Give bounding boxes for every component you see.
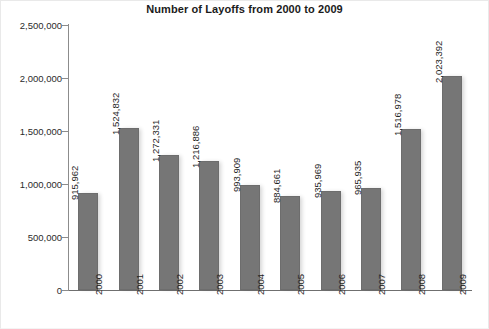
x-axis-label-2005: 2005 bbox=[295, 274, 306, 295]
bar-2002[interactable] bbox=[159, 155, 179, 290]
bar-value-label-2009: 2,023,392 bbox=[433, 40, 444, 82]
x-axis-label-2009: 2009 bbox=[457, 274, 468, 295]
y-axis-label: 0 bbox=[2, 285, 62, 296]
plot-area: 915,9621,524,8321,272,3311,216,886993,90… bbox=[68, 25, 472, 290]
bar-2009[interactable] bbox=[442, 76, 462, 290]
x-axis-label-2008: 2008 bbox=[416, 274, 427, 295]
y-axis-label: 2,000,000 bbox=[2, 73, 62, 84]
x-axis-label-2006: 2006 bbox=[336, 274, 347, 295]
x-axis-label-2001: 2001 bbox=[134, 274, 145, 295]
bar-value-label-2005: 884,661 bbox=[271, 169, 282, 203]
bar-2001[interactable] bbox=[119, 128, 139, 290]
x-axis-label-2007: 2007 bbox=[376, 274, 387, 295]
bar-2003[interactable] bbox=[199, 161, 219, 290]
x-axis-label-2002: 2002 bbox=[174, 274, 185, 295]
y-axis-label: 1,000,000 bbox=[2, 179, 62, 190]
chart-title: Number of Layoffs from 2000 to 2009 bbox=[0, 3, 489, 15]
bar-value-label-2000: 915,962 bbox=[69, 166, 80, 200]
bar-value-label-2006: 935,969 bbox=[312, 163, 323, 197]
bar-value-label-2004: 993,909 bbox=[231, 157, 242, 191]
bar-value-label-2002: 1,272,331 bbox=[150, 120, 161, 162]
y-axis-label: 500,000 bbox=[2, 232, 62, 243]
x-axis-line bbox=[68, 290, 472, 291]
layoffs-bar-chart: Number of Layoffs from 2000 to 2009 0500… bbox=[0, 0, 489, 329]
bar-2008[interactable] bbox=[401, 129, 421, 290]
y-axis-label: 2,500,000 bbox=[2, 20, 62, 31]
x-axis-label-2004: 2004 bbox=[255, 274, 266, 295]
x-axis-label-2003: 2003 bbox=[214, 274, 225, 295]
y-axis-label: 1,500,000 bbox=[2, 126, 62, 137]
y-axis-tick bbox=[62, 290, 69, 291]
bar-value-label-2008: 1,516,978 bbox=[392, 94, 403, 136]
x-axis-label-2000: 2000 bbox=[93, 274, 104, 295]
bar-value-label-2003: 1,216,886 bbox=[190, 126, 201, 168]
bar-value-label-2007: 965,935 bbox=[352, 160, 363, 194]
bar-value-label-2001: 1,524,832 bbox=[110, 93, 121, 135]
